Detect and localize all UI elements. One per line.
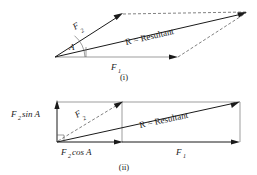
vector-f1-arrowhead [169,54,178,59]
label-f1-subscript-ii: 1 [183,153,186,159]
label-f2-cos-a: F 2 cos A [60,147,92,159]
vector-addition-figure: F 2 F 1 A R = Resultant (i) [0,0,257,175]
label-f1-diagram-ii: F 1 [175,147,186,159]
vector-f2-dashed-arrowhead [114,102,123,109]
label-f1-base-ii: F [175,147,182,157]
diagram-ii-group: F 2 sin A F 2 cos A F 2 F 1 R = Resultan… [10,100,240,172]
label-resultant-diagram-ii: R = Resultant [138,110,189,130]
label-f2-base-ii: F [72,108,83,120]
label-f2-cos-a-subscript: 2 [68,153,71,159]
caption-diagram-i: (i) [120,72,128,82]
label-f2-diagram-i: F 2 [70,20,85,34]
parallelogram-right-dashed-edge [178,13,246,57]
label-f2-sin-a-base: F [10,109,17,119]
vector-f2-sin-a-arrowhead [54,100,59,109]
vector-resultant-arrowhead-diagram-ii [231,102,240,109]
label-f2-cos-a-rest: cos A [72,147,92,157]
vector-resultant-arrowhead [237,12,247,18]
label-f1-base: F [110,62,117,72]
caption-diagram-ii: (ii) [119,162,130,172]
label-f2-subscript: 2 [79,27,85,34]
label-f2-diagram-ii: F 2 [72,108,87,121]
label-f2-subscript-ii: 2 [81,115,87,122]
label-f2-sin-a-rest: sin A [22,109,41,119]
label-f2-cos-a-base: F [60,147,67,157]
label-f2-sin-a-subscript: 2 [18,115,21,121]
label-resultant-diagram-i: R = Resultant [124,26,175,47]
vector-f2-shaft [55,16,119,57]
parallelogram-top-dashed-edge [123,12,246,14]
label-f2-sin-a: F 2 sin A [10,109,41,121]
diagram-i-group: F 2 F 1 A R = Resultant (i) [55,12,247,82]
vector-f2-cos-a-arrowhead [114,139,123,144]
figure-canvas: F 2 F 1 A R = Resultant (i) [0,0,257,175]
vector-f1-arrowhead-diagram-ii [231,139,240,144]
label-angle-a: A [68,42,75,52]
